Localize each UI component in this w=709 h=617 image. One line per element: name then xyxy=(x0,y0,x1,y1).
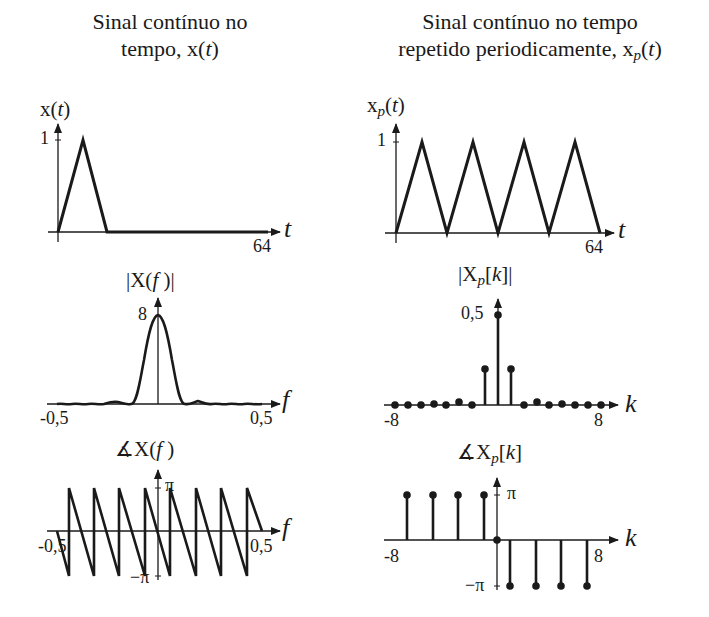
ytick-8: 8 xyxy=(138,304,147,325)
ytick-pi-right: π xyxy=(507,483,516,504)
xlabel-f-phase: f xyxy=(282,513,289,543)
ytick-1-right: 1 xyxy=(377,130,386,151)
figure-canvas xyxy=(0,0,709,617)
ylabel-xp-t: xp(t) xyxy=(367,93,405,120)
xlabel-k-mag: k xyxy=(625,389,637,419)
xtick-neg-half-mag: -0,5 xyxy=(40,408,69,429)
chart-phase-Xp-k xyxy=(384,478,618,590)
ytick-neg-pi-left: −π xyxy=(130,567,149,588)
xtick-64-left: 64 xyxy=(253,236,271,257)
ytick-neg-pi-right: −π xyxy=(465,575,484,596)
xtick-neg-half-phase: -0,5 xyxy=(38,536,67,557)
ylabel-mag-Xp-k: |Xp[k]| xyxy=(458,262,512,289)
ylabel-x-t: x(t) xyxy=(40,97,70,122)
chart-x-t xyxy=(48,124,280,242)
chart-magnitude-X-f xyxy=(47,298,280,404)
chart-phase-X-f xyxy=(47,470,280,580)
ylabel-mag-X-f: |X(f )| xyxy=(126,268,175,293)
xlabel-f-mag: f xyxy=(282,385,289,415)
xtick-half-mag: 0,5 xyxy=(250,408,273,429)
xtick-neg8-mag: -8 xyxy=(384,410,399,431)
xtick-half-phase: 0,5 xyxy=(250,536,273,557)
xlabel-t-right: t xyxy=(618,215,625,245)
ytick-half: 0,5 xyxy=(461,303,484,324)
ylabel-phase-Xp-k: ∡Xp[k] xyxy=(457,440,522,467)
xtick-8-phase: 8 xyxy=(594,546,603,567)
xlabel-k-phase: k xyxy=(625,523,637,553)
xlabel-t-left: t xyxy=(284,214,291,244)
chart-magnitude-Xp-k xyxy=(384,299,618,409)
ylabel-phase-X-f: ∡X(f ) xyxy=(115,437,174,462)
xtick-64-right: 64 xyxy=(585,237,603,258)
ytick-1-left: 1 xyxy=(40,128,49,149)
xtick-8-mag: 8 xyxy=(594,410,603,431)
chart-xp-t xyxy=(385,124,614,243)
xtick-neg8-phase: -8 xyxy=(384,546,399,567)
ytick-pi-left: π xyxy=(165,475,174,496)
